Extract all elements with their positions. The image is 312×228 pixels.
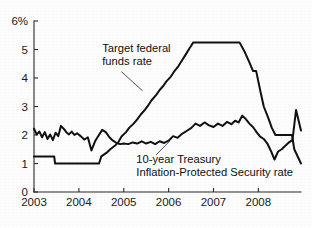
chart-container: 0123456% 200320042005200620072008 Target… [0,0,312,228]
x-tick-label: 2003 [21,196,47,208]
data-series-group [34,42,301,163]
tips-rate-label: Inflation-Protected Security rate [136,166,293,178]
tips-rate-label: 10-year Treasury [136,153,221,165]
y-tick-label: 5 [22,44,28,56]
y-tick-label: 4 [22,72,29,84]
interest-rates-line-chart: 0123456% 200320042005200620072008 Target… [0,0,312,228]
annotation-leader-line [122,72,143,91]
y-tick-label: 6% [11,15,28,27]
x-axis-ticks: 200320042005200620072008 [21,188,271,208]
fed-funds-rate-label: funds rate [102,55,152,67]
x-tick-label: 2006 [156,196,182,208]
x-tick-label: 2007 [201,196,227,208]
x-tick-label: 2005 [111,196,137,208]
y-tick-label: 3 [22,101,28,113]
x-tick-label: 2008 [246,196,272,208]
series-line-fed-funds-rate [34,42,301,163]
x-tick-label: 2004 [66,196,92,208]
fed-funds-rate-label: Target federal [102,42,170,54]
y-tick-label: 2 [22,129,28,141]
y-tick-label: 1 [22,158,28,170]
